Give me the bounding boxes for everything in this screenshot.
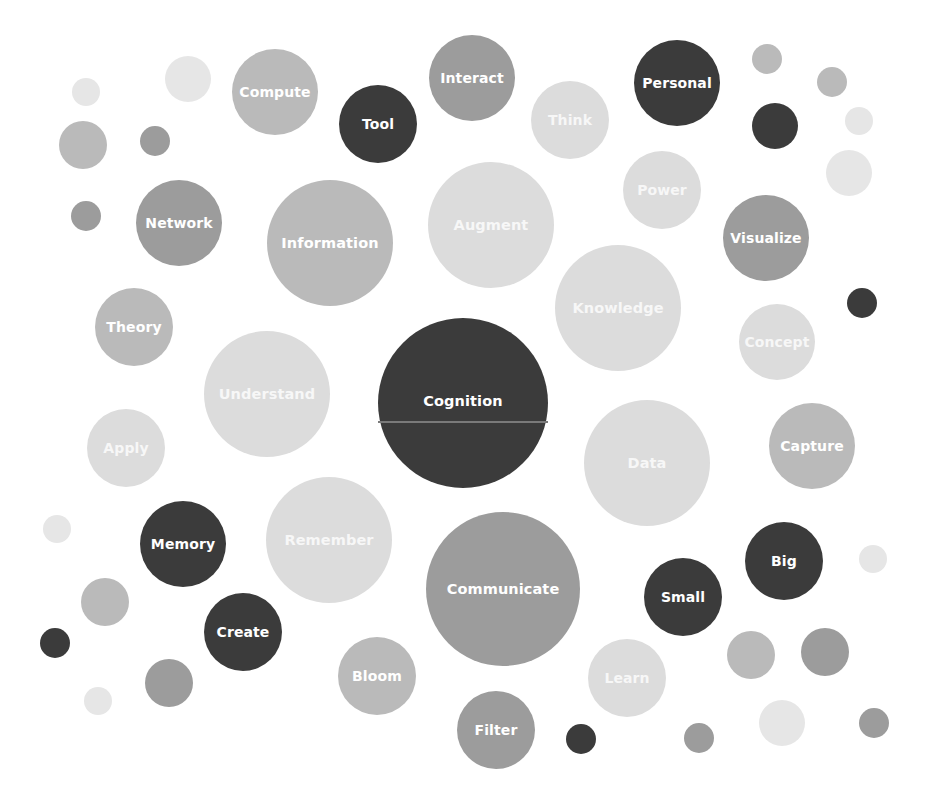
- bubble-label: Compute: [239, 84, 310, 100]
- decorative-dot: [84, 687, 112, 715]
- decorative-dot: [165, 56, 211, 102]
- bubble-label: Information: [281, 235, 378, 251]
- bubble-label: Create: [217, 624, 270, 640]
- bubble-create[interactable]: Create: [204, 593, 282, 671]
- decorative-dot: [43, 515, 71, 543]
- bubble-label: Bloom: [352, 668, 402, 684]
- bubble-big[interactable]: Big: [745, 522, 823, 600]
- decorative-dot: [752, 44, 782, 74]
- bubble-label: Network: [145, 215, 212, 231]
- bubble-label: Visualize: [730, 230, 801, 246]
- decorative-dot: [71, 201, 101, 231]
- bubble-label: Learn: [604, 670, 649, 686]
- bubble-network[interactable]: Network: [136, 180, 222, 266]
- bubble-memory[interactable]: Memory: [140, 501, 226, 587]
- decorative-dot: [845, 107, 873, 135]
- bubble-label: Cognition: [423, 393, 502, 409]
- bubble-learn[interactable]: Learn: [588, 639, 666, 717]
- bubble-apply[interactable]: Apply: [87, 409, 165, 487]
- bubble-understand[interactable]: Understand: [204, 331, 330, 457]
- decorative-dot: [140, 126, 170, 156]
- decorative-dot: [684, 723, 714, 753]
- bubble-tool[interactable]: Tool: [339, 85, 417, 163]
- bubble-label: Concept: [744, 334, 809, 350]
- bubble-augment[interactable]: Augment: [428, 162, 554, 288]
- bubble-cloud-canvas: CognitionComputeToolInteractThinkPersona…: [0, 0, 926, 796]
- bubble-label: Understand: [219, 386, 316, 402]
- bubble-concept[interactable]: Concept: [739, 304, 815, 380]
- bubble-label: Remember: [284, 532, 373, 548]
- bubble-interact[interactable]: Interact: [429, 35, 515, 121]
- decorative-dot: [759, 700, 805, 746]
- bubble-label: Think: [548, 112, 592, 128]
- decorative-dot: [817, 67, 847, 97]
- decorative-dot: [859, 545, 887, 573]
- bubble-small[interactable]: Small: [644, 558, 722, 636]
- decorative-dot: [566, 724, 596, 754]
- bubble-filter[interactable]: Filter: [457, 691, 535, 769]
- bubble-label: Interact: [440, 70, 504, 86]
- decorative-dot: [826, 150, 872, 196]
- bubble-label: Big: [771, 553, 797, 569]
- decorative-dot: [72, 78, 100, 106]
- bubble-power[interactable]: Power: [623, 151, 701, 229]
- decorative-dot: [727, 631, 775, 679]
- bubble-capture[interactable]: Capture: [769, 403, 855, 489]
- bubble-label: Personal: [642, 75, 712, 91]
- bubble-communicate[interactable]: Communicate: [426, 512, 580, 666]
- bubble-label: Data: [628, 455, 667, 471]
- decorative-dot: [59, 121, 107, 169]
- bubble-think[interactable]: Think: [531, 81, 609, 159]
- bubble-label: Knowledge: [572, 300, 663, 316]
- bubble-label: Filter: [475, 722, 518, 738]
- bubble-label: Apply: [103, 440, 148, 456]
- bubble-bloom[interactable]: Bloom: [338, 637, 416, 715]
- decorative-dot: [81, 578, 129, 626]
- bubble-information[interactable]: Information: [267, 180, 393, 306]
- bubble-divider-line: [378, 421, 548, 423]
- bubble-label: Communicate: [447, 581, 560, 597]
- bubble-label: Small: [661, 589, 705, 605]
- decorative-dot: [145, 659, 193, 707]
- bubble-label: Augment: [454, 217, 529, 233]
- bubble-visualize[interactable]: Visualize: [723, 195, 809, 281]
- bubble-personal[interactable]: Personal: [634, 40, 720, 126]
- decorative-dot: [859, 708, 889, 738]
- bubble-compute[interactable]: Compute: [232, 49, 318, 135]
- decorative-dot: [40, 628, 70, 658]
- bubble-data[interactable]: Data: [584, 400, 710, 526]
- decorative-dot: [752, 103, 798, 149]
- decorative-dot: [801, 628, 849, 676]
- bubble-cognition[interactable]: Cognition: [378, 318, 548, 488]
- bubble-theory[interactable]: Theory: [95, 288, 173, 366]
- bubble-label: Power: [637, 182, 687, 198]
- bubble-remember[interactable]: Remember: [266, 477, 392, 603]
- bubble-label: Memory: [151, 536, 215, 552]
- bubble-label: Tool: [362, 116, 394, 132]
- decorative-dot: [847, 288, 877, 318]
- bubble-label: Theory: [106, 319, 161, 335]
- bubble-label: Capture: [780, 438, 844, 454]
- bubble-knowledge[interactable]: Knowledge: [555, 245, 681, 371]
